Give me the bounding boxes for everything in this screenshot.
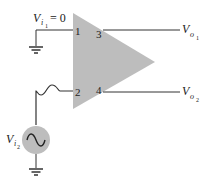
svg-text:2: 2 bbox=[17, 144, 20, 150]
amplifier-triangle bbox=[73, 13, 155, 109]
svg-text:o: o bbox=[190, 92, 194, 101]
svg-text:1: 1 bbox=[196, 35, 199, 41]
ground-icon bbox=[29, 47, 43, 53]
input2-sine-wire bbox=[36, 85, 73, 125]
pin-2-label: 2 bbox=[75, 86, 81, 98]
ac-source-icon bbox=[22, 126, 50, 154]
svg-text:= 0: = 0 bbox=[50, 11, 66, 25]
svg-text:1: 1 bbox=[45, 23, 48, 29]
vo2-label: V o 2 bbox=[182, 84, 199, 103]
vo1-label: V o 1 bbox=[182, 22, 199, 41]
pin-1-label: 1 bbox=[75, 25, 81, 37]
pin-3-label: 3 bbox=[96, 28, 102, 40]
ground-icon bbox=[29, 169, 43, 175]
pin-4-label: 4 bbox=[96, 84, 102, 96]
diff-amp-diagram: 1 2 3 4 V i 1 = 0 V i 2 V o 1 V o 2 bbox=[0, 0, 210, 181]
svg-text:2: 2 bbox=[196, 97, 199, 103]
input1-wire bbox=[36, 30, 73, 46]
svg-text:i: i bbox=[41, 18, 43, 27]
svg-text:o: o bbox=[190, 30, 194, 39]
vi1-label: V i 1 = 0 bbox=[33, 11, 66, 29]
svg-text:i: i bbox=[14, 139, 16, 148]
vi2-label: V i 2 bbox=[6, 132, 20, 150]
